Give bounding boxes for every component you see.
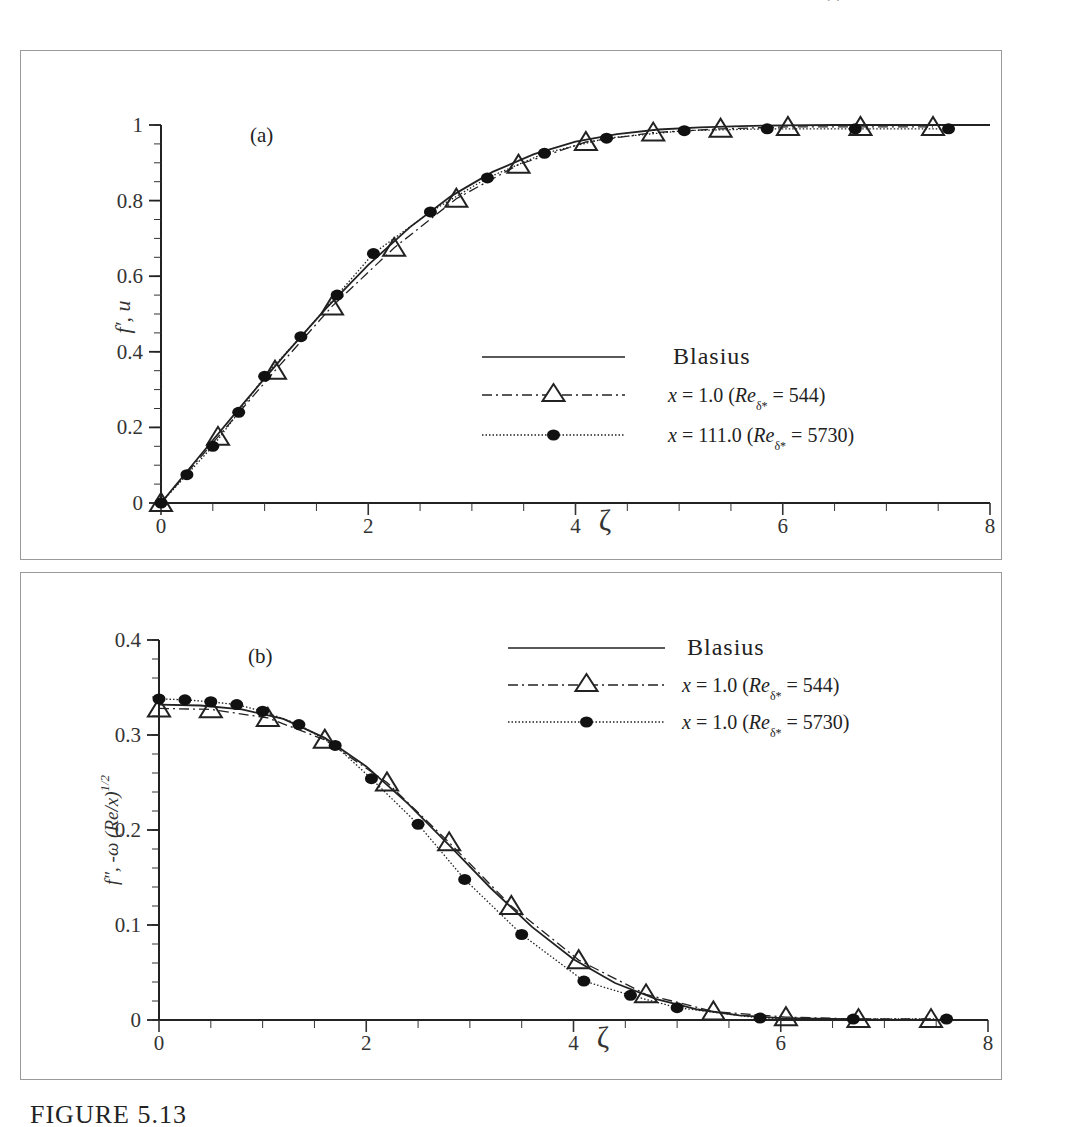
legend-label: x = 1.0 (Reδ* = 5730) [681,711,850,740]
circle-marker [754,1013,767,1024]
panel-label: (a) [250,123,273,147]
y-tick-label: 1 [133,113,144,137]
x-tick-label: 6 [778,514,789,538]
y-tick-label: 0.8 [117,189,143,213]
circle-marker [481,172,494,183]
y-tick-label: 0 [131,1008,142,1032]
x-tick-label: 4 [570,514,581,538]
circle-marker [600,133,613,144]
panel-label: (b) [248,644,273,668]
legend-label: x = 1.0 (Reδ* = 544) [667,384,826,413]
circle-marker [538,148,551,159]
circle-marker [155,498,168,509]
x-tick-label: 2 [361,1031,372,1055]
series-1 [150,117,944,511]
series-2 [155,123,956,508]
circle-marker [942,123,955,134]
circle-marker [940,1014,953,1025]
y-tick-label: 0.2 [117,415,143,439]
circle-marker [256,706,269,717]
y-tick-label: 0.4 [117,340,144,364]
circle-marker [204,696,217,707]
triangle-marker [500,896,522,914]
circle-marker [292,719,305,730]
circle-marker [331,290,344,301]
circle-marker [329,740,342,751]
x-tick-label: 8 [985,514,996,538]
y-tick-label: 0 [133,491,144,515]
y-tick-label: 0.3 [115,723,141,747]
circle-marker [424,206,437,217]
chart-b: 0246800.10.20.30.4ζf″, -ω (Re/x)1/2(b)Bl… [97,628,993,1055]
circle-marker [232,407,245,418]
circle-marker [515,929,528,940]
legend-circle-icon [547,430,560,441]
x-tick-label: 0 [154,1031,165,1055]
triangle-marker [775,1007,797,1025]
legend-triangle-icon [576,674,598,691]
series-1 [148,698,942,1027]
legend: Blasiusx = 1.0 (Reδ* = 544)x = 1.0 (Reδ*… [508,634,850,740]
legend-label: Blasius [673,343,751,369]
circle-marker [678,125,691,136]
circle-marker [761,123,774,134]
x-axis-label: ζ [599,503,611,536]
legend-label: x = 1.0 (Reδ* = 544) [681,674,840,703]
circle-marker [294,331,307,342]
x-tick-label: 8 [983,1031,994,1055]
legend: Blasiusx = 1.0 (Reδ* = 544)x = 111.0 (Re… [482,343,854,453]
legend-circle-icon [580,717,593,728]
chart-a: 0246800.20.40.60.81ζf′, u(a)Blasiusx = 1… [110,113,995,538]
x-axis-label: ζ [597,1020,609,1053]
circle-marker [412,819,425,830]
series-2 [153,693,954,1024]
circle-marker [180,469,193,480]
y-axis-label: f″, -ω (Re/x)1/2 [97,774,123,885]
circle-marker [624,990,637,1001]
circle-marker [206,441,219,452]
triangle-marker [376,773,398,791]
circle-marker [671,1002,684,1013]
y-axis-label: f′, u [110,301,135,334]
circle-marker [458,874,471,885]
x-tick-label: 6 [776,1031,787,1055]
legend-triangle-icon [543,384,565,401]
legend-label: Blasius [687,634,765,660]
circle-marker [178,694,191,705]
y-tick-label: 0.1 [115,913,141,937]
x-tick-label: 2 [363,514,374,538]
circle-marker [230,699,243,710]
x-tick-label: 0 [156,514,167,538]
figure-plots: 0246800.20.40.60.81ζf′, u(a)Blasiusx = 1… [0,0,1078,1127]
triangle-marker [920,1009,942,1027]
circle-marker [365,773,378,784]
circle-marker [849,123,862,134]
circle-marker [847,1014,860,1025]
y-tick-label: 0.4 [115,628,142,652]
y-tick-label: 0.6 [117,264,143,288]
x-tick-label: 4 [568,1031,579,1055]
circle-marker [367,248,380,259]
legend-label: x = 111.0 (Reδ* = 5730) [667,424,854,453]
circle-marker [258,371,271,382]
triangle-marker [568,950,590,968]
series-0 [161,125,990,503]
circle-marker [577,976,590,987]
figure-caption: FIGURE 5.13 [30,1100,187,1127]
circle-marker [153,693,166,704]
triangle-marker [635,984,657,1002]
